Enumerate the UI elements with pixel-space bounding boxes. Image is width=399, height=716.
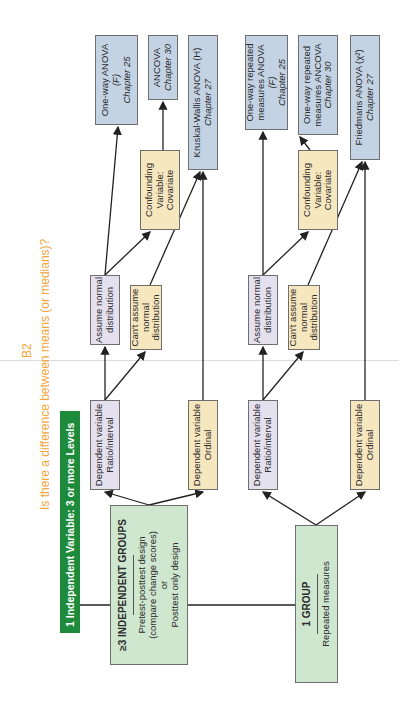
box-line: Confounding xyxy=(302,163,313,217)
ancova-box: ANCOVA Chapter 30 xyxy=(148,35,178,100)
chapter-ref: Chapter 30 xyxy=(163,44,174,91)
diagram-title: Is there a difference between means (or … xyxy=(38,239,52,510)
section-label: B2 xyxy=(20,343,34,358)
dv-ratio-box-2: Dependent variable Ratio/interval xyxy=(248,400,278,490)
one-group-box: 1 GROUP Repeated measures xyxy=(295,525,338,683)
box-line: distribution xyxy=(309,295,320,341)
box-line: Can't assume xyxy=(288,289,299,347)
flowchart-canvas: B2 Is there a difference between means (… xyxy=(0,0,399,716)
kruskal-wallis-box: Kruskal-Wallis ANOVA (H) Chapter 27 xyxy=(188,35,218,170)
cant-assume-box-2: Can't assume normal distribution xyxy=(288,285,320,350)
divider xyxy=(133,555,134,615)
assume-normal-box-1: Assume normal distribution xyxy=(90,275,120,345)
group-line: Repeated measures xyxy=(321,561,332,647)
result-name: One-way repeated xyxy=(302,46,313,124)
rm-anova-box: One-way repeated measures ANOVA (F) Chap… xyxy=(245,35,288,130)
friedman-box: Friedmans ANOVA (χ²) Chapter 27 xyxy=(350,35,380,160)
independent-groups-box: ≥3 INDEPENDENT GROUPS Pretest-posttest d… xyxy=(110,505,188,665)
assume-normal-box-2: Assume normal distribution xyxy=(248,275,278,345)
oneway-anova-box: One-way ANOVA (F) Chapter 25 xyxy=(95,35,138,125)
rm-ancova-box: One-way repeated measures ANCOVA Chapter… xyxy=(298,35,338,135)
divider xyxy=(317,574,318,634)
confounding-box-1: Confounding Variable: Covariate xyxy=(140,150,180,230)
chapter-ref: Chapter 27 xyxy=(203,79,214,126)
dv-ordinal-box-2: Dependent variable Ordinal xyxy=(350,400,380,490)
dv-line: Ordinal xyxy=(365,430,376,461)
box-line: Covariate xyxy=(323,170,334,211)
box-line: distribution xyxy=(105,287,116,333)
result-name: measures ANOVA xyxy=(256,44,267,120)
group-line: Posttest only design xyxy=(170,542,181,627)
confounding-box-2: Confounding Variable: Covariate xyxy=(298,150,338,230)
header-bar: 1 Independent Variable: 3 or more Levels xyxy=(60,411,80,633)
box-line: Can't assume xyxy=(130,289,141,347)
box-line: Confounding xyxy=(144,163,155,217)
cant-assume-box-1: Can't assume normal distribution xyxy=(130,285,162,350)
dv-line: Ordinal xyxy=(203,430,214,461)
dv-ordinal-box-1: Dependent variable Ordinal xyxy=(188,400,218,490)
box-line: distribution xyxy=(263,287,274,333)
box-line: distribution xyxy=(151,295,162,341)
result-name: One-way repeated xyxy=(245,43,256,121)
dv-line: Ratio/interval xyxy=(105,417,116,472)
chapter-ref: Chapter 25 xyxy=(277,59,288,106)
dv-ratio-box-1: Dependent variable Ratio/interval xyxy=(90,400,120,490)
chapter-ref: Chapter 27 xyxy=(365,74,376,121)
dv-line: Ratio/interval xyxy=(263,417,274,472)
chapter-ref: Chapter 25 xyxy=(122,57,133,104)
chapter-ref: Chapter 30 xyxy=(323,62,334,109)
group-title: ≥3 INDEPENDENT GROUPS xyxy=(117,519,129,651)
box-line: Covariate xyxy=(165,170,176,211)
group-title: 1 GROUP xyxy=(301,582,313,627)
